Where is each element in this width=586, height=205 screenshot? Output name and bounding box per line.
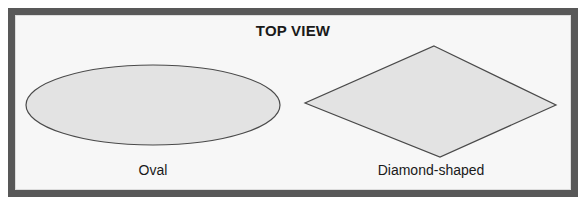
figure-root: TOP VIEW Oval Diamond-shaped bbox=[0, 0, 586, 205]
oval-caption: Oval bbox=[78, 162, 228, 178]
diamond-caption: Diamond-shaped bbox=[345, 162, 517, 178]
oval-shape bbox=[26, 65, 280, 145]
diamond-shape bbox=[305, 46, 556, 157]
